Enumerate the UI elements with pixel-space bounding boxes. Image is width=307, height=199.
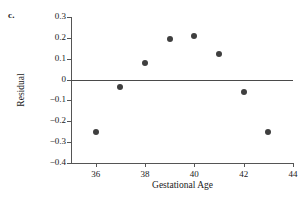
data-point	[241, 89, 247, 95]
y-axis-tick-mark	[67, 100, 71, 101]
y-axis-tick-label: 0.3	[55, 11, 66, 22]
data-point	[142, 60, 148, 66]
y-axis-tick-label: −0.1	[50, 94, 66, 105]
x-axis-tick-label: 38	[141, 169, 150, 180]
y-axis-tick-mark	[67, 38, 71, 39]
y-axis-tick-mark	[67, 142, 71, 143]
data-point	[93, 129, 99, 135]
y-axis-tick-mark	[67, 17, 71, 18]
x-axis-tick-label: 36	[91, 169, 100, 180]
x-axis-tick-mark	[145, 163, 146, 167]
x-axis-tick-label: 42	[239, 169, 248, 180]
y-axis-tick-label: 0.1	[55, 53, 66, 64]
data-point	[265, 129, 271, 135]
y-axis-tick-label: −0.3	[50, 136, 66, 147]
y-axis-tick-label: −0.2	[50, 115, 66, 126]
x-axis-tick-label: 44	[289, 169, 298, 180]
data-point	[216, 51, 222, 57]
y-axis-tick-label: −0.4	[50, 157, 66, 168]
data-point	[167, 36, 173, 42]
zero-reference-line	[71, 80, 293, 81]
x-axis-line	[71, 163, 294, 164]
y-axis-tick-mark	[67, 163, 71, 164]
x-axis-tick-mark	[194, 163, 195, 167]
y-axis-tick-label: 0.2	[55, 32, 66, 43]
y-axis-tick-mark	[67, 59, 71, 60]
data-point	[191, 33, 197, 39]
scatter-plot-area: 0.30.20.10−0.1−0.2−0.3−0.4	[71, 17, 293, 163]
x-axis-tick-mark	[96, 163, 97, 167]
x-axis-tick-mark	[244, 163, 245, 167]
x-axis-tick-mark	[293, 163, 294, 167]
x-axis-tick-label: 40	[190, 169, 199, 180]
y-axis-tick-mark	[67, 121, 71, 122]
x-axis-title: Gestational Age	[71, 180, 294, 190]
panel-letter: c.	[8, 10, 15, 20]
data-point	[117, 84, 123, 90]
y-axis-title: Residual	[16, 73, 26, 106]
y-axis-tick-label: 0	[62, 74, 67, 85]
